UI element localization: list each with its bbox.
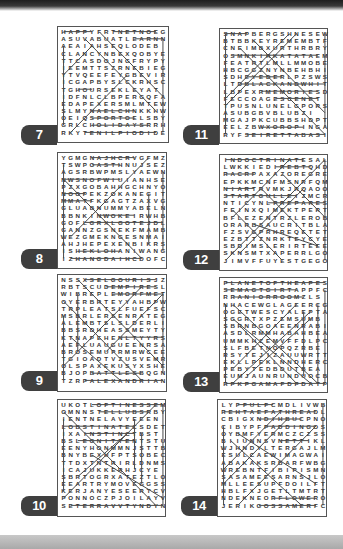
grid-cell: E: [88, 100, 95, 107]
grid-cell: B: [314, 322, 321, 329]
grid-row: TZRPALEXANDRIAN: [60, 377, 166, 384]
grid-cell: Y: [272, 257, 279, 264]
grid-cell: N: [74, 212, 81, 219]
grid-cell: O: [131, 42, 138, 49]
grid-cell: E: [152, 451, 159, 458]
grid-cell: K: [241, 459, 248, 466]
grid-cell: B: [234, 430, 241, 437]
grid-cell: T: [300, 163, 307, 170]
grid-cell: A: [159, 341, 166, 348]
grid-cell: B: [222, 214, 229, 221]
grid-cell: R: [95, 86, 102, 93]
grid-cell: I: [229, 185, 236, 192]
grid-row: NTICYNLPREPARES: [222, 199, 328, 206]
grid-cell: P: [81, 377, 88, 384]
grid-cell: N: [74, 334, 81, 341]
grid-cell: W: [300, 351, 307, 358]
grid-cell: C: [286, 95, 293, 102]
grid-cell: W: [257, 301, 264, 308]
grid-cell: E: [117, 240, 124, 247]
grid-cell: S: [145, 114, 152, 121]
grid-cell: Z: [229, 228, 236, 235]
grid-cell: E: [67, 64, 74, 71]
grid-cell: T: [124, 197, 131, 204]
grid-cell: L: [103, 93, 110, 100]
grid-cell: F: [277, 480, 284, 487]
grid-cell: A: [60, 168, 67, 175]
grid-cell: M: [110, 204, 117, 211]
grid-row: YTVQEEFEYGBEVIR: [60, 71, 166, 78]
grid-cell: U: [124, 408, 131, 415]
grid-cell: R: [138, 57, 145, 64]
grid-cell: A: [117, 247, 124, 254]
grid-cell: Y: [60, 154, 67, 161]
grid-cell: L: [272, 301, 279, 308]
grid-cell: P: [152, 57, 159, 64]
grid-cell: H: [159, 121, 166, 128]
grid-cell: T: [286, 44, 293, 51]
grid-cell: M: [236, 372, 243, 379]
grid-cell: R: [284, 444, 291, 451]
grid-row: PZXGOBAHHGCHNYO: [60, 183, 166, 190]
grid-cell: I: [272, 163, 279, 170]
grid-cell: S: [103, 161, 110, 168]
grid-cell: I: [298, 466, 305, 473]
grid-cell: A: [88, 355, 95, 362]
grid-cell: E: [138, 305, 145, 312]
grid-cell: R: [257, 185, 264, 192]
grid-cell: Y: [124, 415, 131, 422]
grid-cell: B: [300, 131, 307, 138]
grid-row: ALEMBTSLSLDERLI: [60, 319, 166, 326]
grid-cell: D: [300, 337, 307, 344]
grid-cell: S: [314, 293, 321, 300]
grid-cell: R: [74, 377, 81, 384]
grid-cell: L: [138, 494, 145, 501]
grid-cell: T: [272, 214, 279, 221]
grid-cell: I: [321, 131, 328, 138]
grid-cell: E: [277, 444, 284, 451]
grid-cell: I: [60, 255, 67, 262]
grid-cell: D: [131, 319, 138, 326]
grid-cell: O: [319, 415, 326, 422]
grid-cell: K: [95, 190, 102, 197]
grid-cell: R: [272, 293, 279, 300]
grid-row: HBCGGZNYNBEHBHI: [222, 66, 328, 73]
grid-cell: G: [229, 315, 236, 322]
grid-cell: S: [67, 276, 74, 283]
grid-cell: E: [272, 131, 279, 138]
grid-cell: O: [279, 293, 286, 300]
grid-cell: O: [124, 114, 131, 121]
grid-cell: Q: [145, 369, 152, 376]
grid-cell: U: [236, 109, 243, 116]
grid-cell: A: [272, 380, 279, 387]
grid-cell: N: [250, 102, 257, 109]
grid-cell: R: [293, 242, 300, 249]
grid-cell: R: [300, 344, 307, 351]
grid-cell: N: [88, 430, 95, 437]
grid-row: EKLLPEKLNNDHERC: [222, 358, 328, 365]
grid-cell: A: [257, 170, 264, 177]
grid-cell: N: [131, 190, 138, 197]
grid-cell: A: [293, 131, 300, 138]
grid-cell: E: [95, 233, 102, 240]
grid-cell: S: [277, 502, 284, 509]
grid-cell: U: [131, 305, 138, 312]
grid-cell: T: [293, 257, 300, 264]
grid-row: FEINXQIMEKTPERT: [222, 206, 328, 213]
grid-cell: E: [124, 212, 131, 219]
grid-row: YGMGNAJHCRVGFMZ: [60, 154, 166, 161]
grid-cell: L: [117, 305, 124, 312]
grid-cell: O: [95, 401, 102, 408]
grid-cell: E: [67, 502, 74, 509]
grid-cell: S: [74, 362, 81, 369]
grid-cell: I: [300, 123, 307, 130]
grid-cell: B: [279, 116, 286, 123]
grid-row: RSYTEJIZAUUWRTT: [222, 351, 328, 358]
grid-cell: N: [60, 190, 67, 197]
grid-cell: E: [131, 473, 138, 480]
grid-cell: P: [265, 315, 272, 322]
grid-row: SETERRAVVTYNDYN: [60, 502, 166, 509]
grid-cell: B: [227, 487, 234, 494]
grid-cell: E: [227, 502, 234, 509]
grid-cell: N: [74, 226, 81, 233]
